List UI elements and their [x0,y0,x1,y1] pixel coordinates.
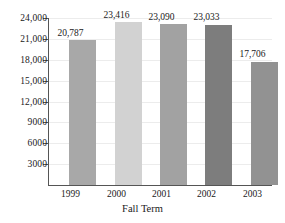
bar-chart: 24,000 21,000 18,000 15,000 12,000 9000 … [0,0,285,223]
x-axis-label-2000: 2000 [91,189,142,200]
x-axis-label-2002: 2002 [181,189,232,200]
y-axis-label-6000: 6000 [28,138,47,148]
y-axis-label-15000: 15,000 [20,76,47,86]
bar-value-2001: 23,090 [136,12,187,22]
x-axis-label-2001: 2001 [136,189,187,200]
y-axis-label-18000: 18,000 [20,55,47,65]
bar-2000[interactable] [115,22,142,185]
x-axis-line [48,185,272,186]
bar-value-2003: 17,706 [227,49,278,59]
bar-2003[interactable] [251,62,278,185]
bar-2001[interactable] [160,24,187,185]
y-axis-label-9000: 9000 [28,117,47,127]
plot-area [48,18,272,185]
bar-value-2000: 23,416 [91,10,142,20]
x-axis-label-2003: 2003 [227,189,278,200]
bar-value-1999: 20,787 [45,28,96,38]
y-axis-line [48,18,49,185]
x-axis-label-1999: 1999 [45,189,96,200]
y-axis-label-24000: 24,000 [20,13,47,23]
x-axis-title: Fall Term [0,203,285,215]
y-axis-label-3000: 3000 [28,159,47,169]
bar-1999[interactable] [69,40,96,185]
bar-value-2002: 23,033 [181,12,232,22]
y-axis-label-21000: 21,000 [20,34,47,44]
y-axis-label-12000: 12,000 [20,97,47,107]
